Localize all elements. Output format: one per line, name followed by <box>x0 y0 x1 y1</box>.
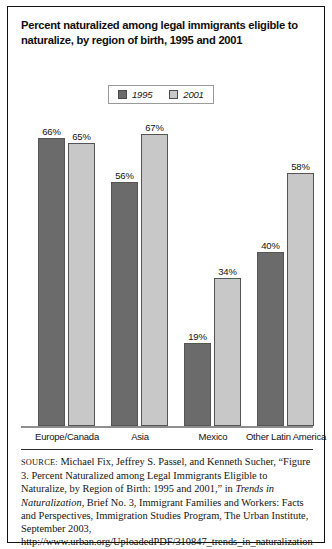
bar-2001-other-latin-america: 58% <box>287 173 314 426</box>
source-divider <box>21 449 313 450</box>
source-label: SOURCE: <box>21 458 58 467</box>
bar-2001-asia: 67% <box>141 134 168 426</box>
legend-label-2001: 2001 <box>183 89 203 100</box>
bar-value-1995-mexico: 19% <box>188 331 206 342</box>
legend-swatch-1995-icon <box>118 90 127 99</box>
x-axis-categories: Europe/Canada Asia Mexico Other Latin Am… <box>21 431 313 445</box>
bar-value-2001-asia: 67% <box>145 122 163 133</box>
source-note: SOURCE: Michael Fix, Jeffrey S. Passel, … <box>21 455 315 549</box>
chart-legend: 1995 2001 <box>108 85 214 104</box>
bar-1995-mexico: 19% <box>184 343 211 426</box>
category-label-asia: Asia <box>131 431 149 442</box>
bar-value-1995-europe-canada: 66% <box>42 126 60 137</box>
x-axis-line <box>21 426 313 428</box>
legend-entry-1995: 1995 <box>118 89 152 100</box>
bar-value-2001-mexico: 34% <box>218 266 236 277</box>
category-label-mexico: Mexico <box>199 431 228 442</box>
figure-frame: Percent naturalized among legal immigran… <box>7 6 325 543</box>
legend-entry-2001: 2001 <box>169 89 203 100</box>
category-label-europe-canada: Europe/Canada <box>35 431 99 442</box>
bar-value-1995-other-latin-america: 40% <box>261 240 279 251</box>
legend-label-1995: 1995 <box>132 89 152 100</box>
chart-plot-area: 66% 65% 56% 67% 19% 34% 40% <box>21 112 313 428</box>
bar-value-1995-asia: 56% <box>115 170 133 181</box>
bar-1995-asia: 56% <box>111 182 138 426</box>
category-label-other-latin-america: Other Latin America <box>246 431 326 442</box>
legend-swatch-2001-icon <box>169 90 178 99</box>
bar-2001-mexico: 34% <box>214 278 241 426</box>
bar-1995-europe-canada: 66% <box>38 138 65 426</box>
page-title: Percent naturalized among legal immigran… <box>21 18 306 48</box>
bar-value-2001-other-latin-america: 58% <box>291 161 309 172</box>
bar-1995-other-latin-america: 40% <box>257 252 284 426</box>
bar-2001-europe-canada: 65% <box>68 143 95 426</box>
bar-value-2001-europe-canada: 65% <box>72 131 90 142</box>
